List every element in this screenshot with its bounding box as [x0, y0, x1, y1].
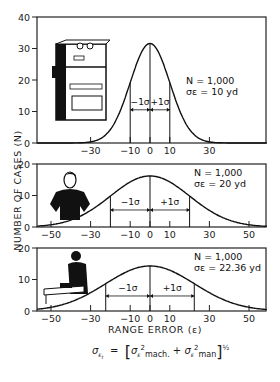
sigma-annotation: σε = 20 yd: [194, 178, 246, 189]
y-tick-label: 0: [24, 306, 30, 317]
x-tick-label: 30: [203, 229, 215, 240]
plus-sigma-label: +1σ: [150, 97, 169, 107]
plus-sigma-label: +1σ: [160, 197, 179, 207]
sigma-annotation: σε = 22.36 yd: [194, 262, 261, 273]
y-tick-label: 0: [24, 138, 30, 149]
y-tick-label: 10: [18, 106, 30, 117]
x-tick-label: 50: [243, 229, 255, 240]
y-tick-label: 20: [18, 75, 30, 86]
x-tick-label: −30: [81, 313, 101, 324]
sample-size-annotation: N = 1,000: [186, 75, 234, 86]
x-tick-label: −30: [81, 229, 101, 240]
minus-sigma-label: −1σ: [121, 197, 140, 207]
x-tick-label: 30: [203, 145, 215, 156]
panel-man-machine: 01020−50−30−100103050−1σ+1σN = 1,000σε =…: [18, 243, 267, 325]
sample-size-annotation: N = 1,000: [194, 251, 242, 262]
x-tick-label: 10: [164, 229, 176, 240]
x-tick-label: −10: [120, 229, 140, 240]
y-tick-label: 30: [18, 43, 30, 54]
man-at-console-illustration: [44, 251, 88, 304]
computer-cabinet-illustration: [52, 40, 110, 120]
x-tick-label: 30: [203, 313, 215, 324]
x-axis-label: RANGE ERROR (ε): [100, 324, 210, 335]
sigma-annotation: σε = 10 yd: [186, 86, 238, 97]
x-tick-label: 0: [147, 145, 153, 156]
x-tick-label: 0: [147, 229, 153, 240]
x-tick-label: −10: [120, 145, 140, 156]
minus-sigma-label: −1σ: [118, 283, 137, 293]
y-tick-label: 10: [18, 274, 30, 285]
standing-man-illustration: [50, 172, 90, 220]
minus-sigma-label: −1σ: [131, 97, 150, 107]
plus-sigma-label: +1σ: [163, 283, 182, 293]
x-tick-label: 50: [243, 313, 255, 324]
x-tick-label: 0: [147, 313, 153, 324]
y-axis-label: NUMBER OF CASES (N): [12, 126, 23, 256]
x-tick-label: −50: [41, 313, 61, 324]
y-tick-label: 40: [18, 12, 30, 23]
x-tick-label: 10: [164, 145, 176, 156]
x-tick-label: −10: [120, 313, 140, 324]
x-tick-label: −30: [81, 145, 101, 156]
x-tick-label: −50: [41, 229, 61, 240]
total-error-formula: σεt = [σε2mach. + σε2man]½: [92, 342, 229, 361]
panel-machine: 010203040−30−1001030−1σ+1σN = 1,000σε = …: [18, 12, 267, 157]
sample-size-annotation: N = 1,000: [194, 167, 242, 178]
x-tick-label: 10: [164, 313, 176, 324]
y-tick-label: 0: [24, 222, 30, 233]
